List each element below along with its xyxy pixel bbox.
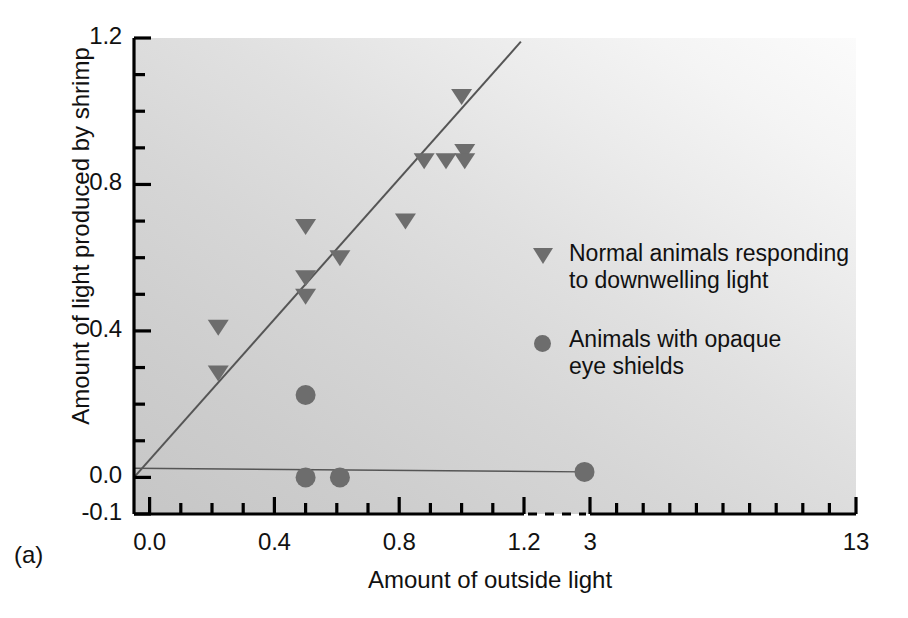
triangle-down-icon bbox=[531, 244, 557, 270]
datapoint-triangle bbox=[395, 214, 416, 230]
datapoint-triangle bbox=[295, 270, 316, 286]
y-tick-label: -0.1 bbox=[52, 498, 122, 526]
datapoint-triangle bbox=[451, 89, 472, 105]
x-tick-label: 3 bbox=[545, 528, 635, 556]
x-tick-label: 0.4 bbox=[229, 528, 319, 556]
datapoint-triangle bbox=[436, 153, 457, 169]
circle-icon bbox=[531, 330, 557, 356]
chart-legend: Normal animals responding to downwelling… bbox=[531, 240, 881, 412]
datapoint-circle bbox=[330, 467, 350, 487]
trendline-shielded bbox=[134, 468, 585, 472]
legend-label-eye-shields: Animals with opaque eye shields bbox=[569, 326, 781, 380]
datapoint-circle bbox=[575, 462, 595, 482]
datapoint-triangle bbox=[454, 153, 475, 169]
figure-panel-a: -0.10.00.40.81.2 0.00.40.81.2313 Amount … bbox=[0, 0, 908, 618]
x-tick-label: 0.0 bbox=[105, 528, 195, 556]
datapoint-circle bbox=[296, 467, 316, 487]
trendline-group bbox=[134, 42, 585, 478]
x-axis-title: Amount of outside light bbox=[280, 566, 700, 594]
y-axis-title: Amount of light produced by shrimp bbox=[67, 1, 95, 471]
datapoint-triangle bbox=[208, 320, 229, 336]
x-tick-label: 0.8 bbox=[354, 528, 444, 556]
datapoint-triangle bbox=[295, 289, 316, 305]
datapoint-triangle bbox=[295, 219, 316, 235]
trendline-normal bbox=[134, 42, 521, 478]
datapoint-circle bbox=[296, 385, 316, 405]
panel-caption: (a) bbox=[14, 541, 43, 569]
x-tick-label: 13 bbox=[811, 528, 901, 556]
legend-label-normal-animals: Normal animals responding to downwelling… bbox=[569, 240, 849, 294]
legend-item-eye-shields: Animals with opaque eye shields bbox=[531, 326, 881, 380]
legend-item-normal-animals: Normal animals responding to downwelling… bbox=[531, 240, 881, 294]
datapoint-triangle bbox=[329, 250, 350, 266]
datapoint-triangle bbox=[414, 153, 435, 169]
